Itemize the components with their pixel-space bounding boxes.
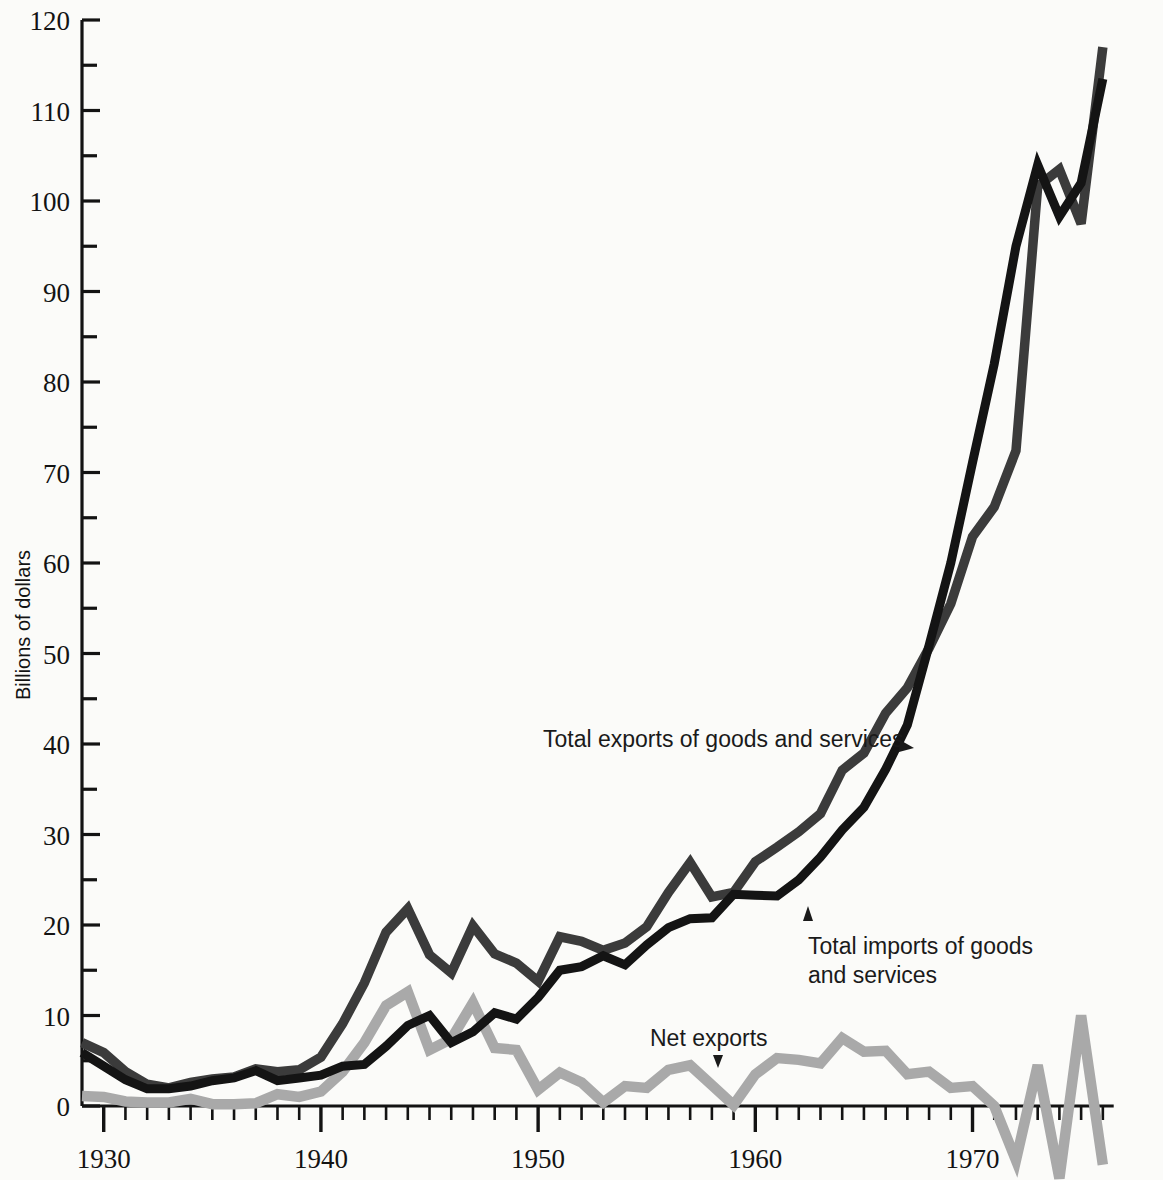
y-axis-tick-label: 110: [31, 97, 71, 127]
imports-annotation-label-line1: Total imports of goods: [808, 933, 1033, 959]
net-exports-annotation-arrow-icon: [713, 1055, 723, 1068]
y-axis-tick-label: 60: [43, 549, 70, 579]
y-axis-tick-label: 20: [43, 911, 70, 941]
x-axis-tick-label: 1960: [728, 1144, 782, 1174]
y-axis-tick-label: 30: [43, 821, 70, 851]
chart-container: Billions of dollars 01020304050607080901…: [0, 0, 1163, 1180]
y-axis-tick-label: 10: [43, 1002, 70, 1032]
y-axis-tick-label: 80: [43, 368, 70, 398]
x-axis-tick-label: 1940: [294, 1144, 348, 1174]
y-axis: 0102030405060708090100110120: [30, 6, 101, 1122]
x-axis: 19301940195019601970: [77, 1106, 1114, 1174]
y-axis-tick-label: 50: [43, 640, 70, 670]
x-axis-tick-label: 1950: [511, 1144, 565, 1174]
y-axis-tick-label: 0: [57, 1092, 71, 1122]
exports-annotation: Total exports of goods and services: [543, 726, 914, 752]
imports-annotation-label-line2: and services: [808, 962, 937, 988]
y-axis-tick-label: 70: [43, 459, 70, 489]
imports-annotation-arrow-icon: [803, 906, 813, 921]
y-axis-tick-label: 120: [30, 6, 71, 36]
y-axis-tick-label: 90: [43, 278, 70, 308]
data-series-group: [82, 47, 1103, 1178]
exports-annotation-arrow-icon: [899, 740, 914, 752]
x-axis-tick-label: 1970: [946, 1144, 1000, 1174]
y-axis-tick-label: 100: [30, 187, 71, 217]
net-exports-annotation-label: Net exports: [650, 1025, 768, 1051]
net-exports-annotation: Net exports: [650, 1025, 768, 1068]
imports-annotation: Total imports of goods and services: [803, 906, 1033, 988]
y-axis-tick-label: 40: [43, 730, 70, 760]
x-axis-tick-label: 1930: [77, 1144, 131, 1174]
exports-annotation-label: Total exports of goods and services: [543, 726, 904, 752]
line-chart-svg: Billions of dollars 01020304050607080901…: [0, 0, 1163, 1180]
y-axis-title: Billions of dollars: [12, 550, 34, 700]
